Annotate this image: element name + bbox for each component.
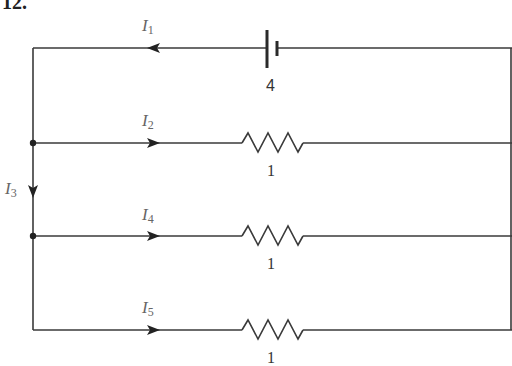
resistor-value-label: 1 <box>267 256 275 272</box>
current-label-i4: I4 <box>142 206 154 225</box>
resistor-value-label: 1 <box>267 350 275 366</box>
current-index: 1 <box>148 23 154 37</box>
current-index: 5 <box>148 305 154 319</box>
current-label-i1: I1 <box>142 17 154 36</box>
current-label-i3: I3 <box>5 180 17 199</box>
resistor-value-label: 1 <box>267 163 275 179</box>
current-index: 3 <box>11 186 17 200</box>
junction-dot <box>30 140 36 146</box>
resistor-icon <box>242 226 303 245</box>
battery-value-label: 4 <box>266 78 275 94</box>
problem-number: 12. <box>2 0 27 14</box>
junction-dot <box>30 233 36 239</box>
current-index: 4 <box>148 212 154 226</box>
resistor-icon <box>242 320 303 339</box>
resistor-icon <box>242 133 303 152</box>
current-label-i5: I5 <box>142 299 154 318</box>
battery-icon <box>267 30 277 68</box>
current-label-i2: I2 <box>142 112 154 131</box>
current-index: 2 <box>148 118 154 132</box>
